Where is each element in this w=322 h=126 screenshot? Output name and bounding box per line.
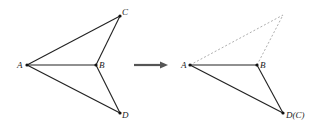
label-D-left: D [121,110,129,120]
right-figure-dashed [190,15,283,65]
label-C-left: C [122,7,129,17]
arrow-right-icon [134,62,168,69]
vertex-A [25,63,28,66]
label-A-left: A [16,60,23,70]
vertex-B [94,63,97,66]
edge-AC [27,16,120,65]
edge-BD [96,65,120,113]
vertex-A-right [188,63,191,66]
edge-B-apex [257,15,283,65]
label-A-right: A [180,60,187,70]
label-B-left: B [99,60,105,70]
edge-A-apex [190,15,283,65]
left-figure [27,16,120,113]
right-figure [190,65,283,113]
vertex-B-right [255,63,258,66]
edge-AD [27,65,120,113]
fold-diagram: A B C D A B D(C) [0,0,322,126]
edge-AD-right [190,65,283,113]
label-DC-right: D(C) [285,110,305,120]
vertex-D-right [281,111,284,114]
label-B-right: B [260,60,266,70]
edge-BC [96,16,120,65]
